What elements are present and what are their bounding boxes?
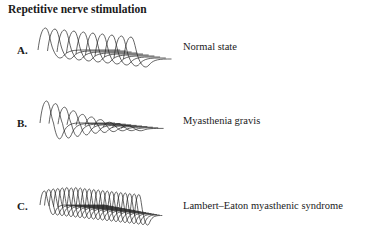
- cmap-sweep: [135, 195, 163, 226]
- cmap-sweep: [126, 194, 157, 225]
- cmap-sweep: [58, 107, 126, 136]
- cmap-sweep: [49, 104, 120, 138]
- waveform-canvas: [0, 0, 379, 233]
- cmap-sweep: [81, 189, 130, 220]
- myasthenia-gravis-cmap-trace: [40, 101, 164, 139]
- lambert-eaton-cmap-trace: [40, 188, 162, 226]
- normal-state-cmap-trace: [38, 28, 172, 67]
